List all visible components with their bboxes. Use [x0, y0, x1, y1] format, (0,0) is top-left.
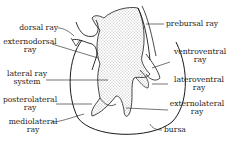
ventroventral-ray-shape	[146, 54, 160, 80]
label-prebursal-ray: prebursal ray	[166, 20, 218, 28]
label-posterolateral-ray: posterolateral ray	[0, 96, 60, 112]
externodorsal-ray-shape	[72, 39, 97, 70]
bursa-diagram: dorsal ray externodorsal ray lateral ray…	[0, 0, 232, 141]
label-ventroventral-ray: ventroventral ray	[170, 48, 230, 64]
label-lateroventral-ray: lateroventral ray	[170, 76, 228, 92]
label-externodorsal-ray: externodorsal ray	[0, 38, 60, 54]
label-externolateral-ray: externolateral ray	[166, 100, 228, 116]
lateral-ray-system-shape	[92, 7, 150, 116]
label-lateral-ray-system: lateral ray system	[4, 70, 50, 86]
label-mediolateral-ray: mediolateral ray	[6, 118, 60, 134]
label-bursa: bursa	[164, 126, 186, 134]
label-dorsal-ray: dorsal ray	[6, 24, 58, 32]
